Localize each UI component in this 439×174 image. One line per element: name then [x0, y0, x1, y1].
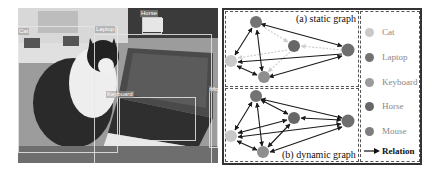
- bbox-label-laptop: Laptop: [95, 26, 115, 33]
- mouse-node-icon: [365, 127, 374, 136]
- horse-node-icon: [365, 102, 374, 111]
- bbox-mouse: [209, 88, 218, 148]
- scene-photo: Cat Laptop Horse Keyboard Mo: [18, 8, 218, 163]
- static-graph-title: (a) static graph: [296, 13, 356, 24]
- legend-label-relation: Relation: [382, 146, 415, 156]
- legend-label-keyboard: Keyboard: [382, 77, 418, 87]
- legend-item-mouse: Mouse: [365, 125, 407, 137]
- bbox-label-horse: Horse: [140, 10, 158, 17]
- dynamic-graph-edges: [235, 99, 342, 152]
- bbox-label-mouse: Mo: [209, 86, 218, 93]
- graph-panel: (a) static graph (b) dynamic graph Cat L…: [222, 8, 422, 165]
- bbox-keyboard: [119, 97, 196, 141]
- static-graph-edges: [235, 24, 342, 77]
- legend-item-laptop: Laptop: [365, 51, 408, 63]
- bbox-label-cat: Cat: [18, 28, 29, 35]
- bbox-horse: [142, 17, 162, 34]
- legend-label-mouse: Mouse: [382, 126, 407, 136]
- cat-node-icon: [365, 28, 374, 37]
- legend-item-horse: Horse: [365, 100, 404, 112]
- keyboard-node-icon: [365, 78, 374, 87]
- legend-item-keyboard: Keyboard: [365, 76, 418, 88]
- bbox-label-keyboard: Keyboard: [106, 91, 134, 98]
- legend-label-laptop: Laptop: [382, 52, 408, 62]
- legend: Cat Laptop Keyboard Horse Mouse Relation: [360, 11, 420, 162]
- legend-label-horse: Horse: [382, 101, 404, 111]
- dynamic-graph-title: (b) dynamic graph: [282, 149, 356, 160]
- legend-item-relation: Relation: [364, 145, 415, 157]
- static-graph-nodes: [225, 16, 355, 83]
- legend-label-cat: Cat: [382, 27, 395, 37]
- legend-item-cat: Cat: [365, 26, 395, 38]
- laptop-node-icon: [365, 53, 374, 62]
- relation-arrow-icon: [364, 148, 380, 154]
